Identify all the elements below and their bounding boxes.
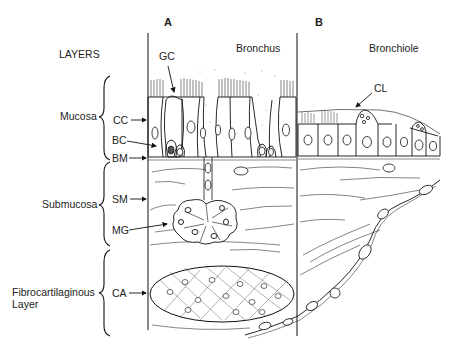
bc-arrow [127, 141, 156, 146]
layer-submucosa-label: Submucosa [42, 198, 97, 210]
mucosa-brace [99, 76, 110, 160]
gland-duct [204, 157, 212, 200]
goblet-cell-label: GC [159, 50, 175, 62]
smooth-muscle-label: SM [112, 193, 128, 205]
bronchus-title: Bronchus [236, 42, 280, 54]
bronchiole-title: Bronchiole [369, 42, 419, 54]
layer-fibrocartilaginous-label: Fibrocartilaginous [12, 286, 95, 298]
cl-arrow [356, 93, 372, 107]
basal-cell-label: BC [112, 134, 127, 146]
gc-arrow [168, 66, 174, 92]
bronchiole-wall [245, 180, 440, 338]
basement-membrane-label: BM [112, 152, 128, 164]
panel-b-letter: B [315, 16, 323, 28]
histology-diagram: A B Bronchus Bronchiole LAYERS Mucosa Su… [0, 0, 451, 355]
mucous-gland [173, 200, 237, 245]
fibrocartilaginous-brace [99, 250, 110, 336]
layer-fibrocartilaginous-label-line2: Layer [12, 298, 38, 310]
cartilage-plate [150, 266, 294, 329]
layer-mucosa-label: Mucosa [60, 110, 97, 122]
bronchus-mucus-stipple [169, 69, 275, 125]
cartilage-label: CA [112, 287, 127, 299]
bronchus-cilia [151, 78, 293, 97]
submucosa-brace [99, 162, 110, 246]
clara-cell-label: CL [374, 82, 387, 94]
ciliated-cell-label: CC [113, 114, 128, 126]
panel-a-letter: A [164, 16, 172, 28]
bronchus-nuclei [152, 121, 290, 156]
layers-heading: LAYERS [59, 48, 100, 60]
mucous-gland-label: MG [112, 224, 129, 236]
